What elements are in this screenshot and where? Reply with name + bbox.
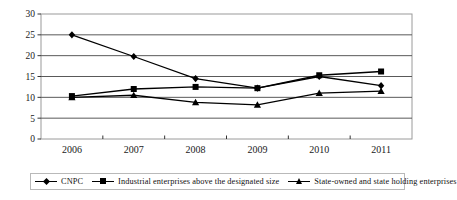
line-chart: 051015202530 200620072008200920102011	[0, 0, 431, 160]
square-marker-icon	[378, 69, 384, 75]
y-tick-label: 0	[30, 134, 35, 144]
legend-label: CNPC	[61, 177, 83, 186]
x-tick-label: 2006	[62, 144, 82, 155]
x-tick-label: 2009	[247, 144, 267, 155]
y-tick-label: 5	[30, 114, 35, 124]
triangle-marker-icon	[288, 177, 310, 187]
y-tick-label: 30	[26, 9, 36, 19]
x-tick-label: 2010	[309, 144, 329, 155]
diamond-marker-icon	[35, 177, 57, 187]
y-tick-label: 20	[26, 51, 36, 61]
square-marker-icon	[254, 85, 260, 91]
legend-label: State-owned and state holding enterprise…	[314, 177, 456, 186]
x-tick-label: 2008	[186, 144, 206, 155]
y-tick-label: 25	[26, 30, 36, 40]
square-marker-icon	[92, 177, 114, 187]
square-marker-icon	[316, 72, 322, 78]
y-axis-labels: 051015202530	[26, 9, 36, 144]
chart-svg: 051015202530 200620072008200920102011	[0, 0, 431, 162]
chart-legend: CNPC Industrial enterprises above the de…	[30, 173, 405, 190]
y-tick-label: 15	[26, 72, 36, 82]
legend-label: Industrial enterprises above the designa…	[118, 177, 279, 186]
legend-item-industrial-enterprises[interactable]: Industrial enterprises above the designa…	[92, 177, 279, 187]
x-tick-label: 2007	[124, 144, 144, 155]
square-marker-icon	[193, 84, 199, 90]
square-marker-icon	[131, 86, 137, 92]
y-tick-label: 10	[26, 93, 36, 103]
legend-item-state-owned-enterprises[interactable]: State-owned and state holding enterprise…	[288, 177, 456, 187]
x-axis-labels: 200620072008200920102011	[62, 144, 391, 155]
x-tick-label: 2011	[371, 144, 391, 155]
legend-item-cnpc[interactable]: CNPC	[35, 177, 83, 187]
y-tick-marks	[38, 14, 42, 139]
